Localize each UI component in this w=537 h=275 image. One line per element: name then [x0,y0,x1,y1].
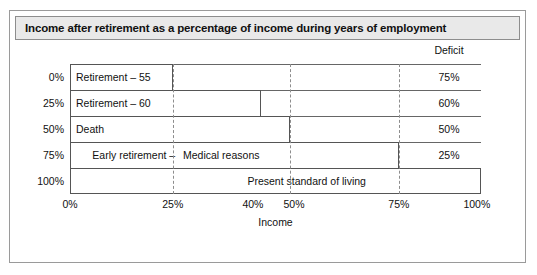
y-tick-0: 0% [22,64,64,90]
x-tick-100: 100% [463,198,490,210]
bar-label-early-retirement: Early retirement – [70,142,175,168]
bar-label-present-standard: Present standard of living [70,168,366,194]
y-tick-25: 25% [22,90,64,116]
y-tick-50: 50% [22,116,64,142]
x-axis-title: Income [70,216,481,228]
chart-row-present-standard: Present standard of living [70,168,481,194]
chart-frame: Income after retirement as a percentage … [9,10,526,263]
chart-title-bar: Income after retirement as a percentage … [15,16,520,40]
deficit-column-header: Deficit [408,44,490,56]
bar-label-retirement-60: Retirement – 60 [70,90,173,116]
gridline-50 [290,64,291,194]
page-title: Income after retirement as a percentage … [16,22,446,34]
gridline-75 [399,64,400,194]
y-tick-100: 100% [22,168,64,194]
x-tick-75: 75% [388,198,409,210]
bar-label-retirement-55: Retirement – 55 [70,64,173,90]
deficit-value-row-4: 25% [408,142,490,168]
y-tick-75: 75% [22,142,64,168]
x-tick-25: 25% [162,198,183,210]
x-tick-40: 40% [242,198,263,210]
deficit-value-row-2: 60% [408,90,490,116]
bar-label-medical-reasons: Medical reasons [183,142,259,168]
deficit-value-row-3: 50% [408,116,490,142]
x-tick-0: 0% [62,198,77,210]
chart-plot-area: 0% 25% 50% 75% 100% Retirement – 55 Reti… [70,64,481,194]
gridline-25 [173,64,174,194]
x-tick-50: 50% [283,198,304,210]
deficit-value-row-1: 75% [408,64,490,90]
bar-label-death: Death [70,116,173,142]
